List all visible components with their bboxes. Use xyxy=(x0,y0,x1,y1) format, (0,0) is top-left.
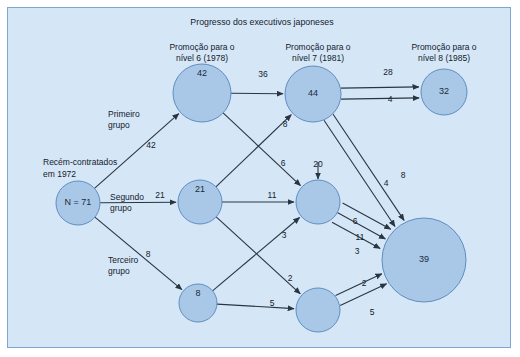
column-header-nivel7-line2: nível 7 (1981) xyxy=(292,53,344,63)
edge-n20-to-n39 xyxy=(343,203,391,229)
column-header-nivel8-line2: nível 8 (1985) xyxy=(418,53,470,63)
edge-n8-to-n20 xyxy=(213,218,300,291)
node-n42: 42 xyxy=(173,64,231,122)
edge-label-n20-n39-15: 11 xyxy=(356,232,365,242)
edge-label-n21-n20-6: 11 xyxy=(268,190,277,200)
edge-label-n21-n44-5: 8 xyxy=(283,119,288,129)
node-n32: 32 xyxy=(421,69,467,115)
node-n39: 39 xyxy=(382,218,466,302)
edge-n42-to-n20 xyxy=(223,113,300,186)
group-3-label-line2: grupo xyxy=(108,266,130,276)
node-nbot xyxy=(296,288,340,332)
group-1-label-line1: Primeiro xyxy=(108,109,140,119)
edge-label-n44-n32-11: 4 xyxy=(388,94,393,104)
edge-label-n8-nbot-9: 5 xyxy=(270,298,275,308)
edge-label-n44-n39-13: 8 xyxy=(401,170,406,180)
node-n8: 8 xyxy=(179,284,217,322)
edge-label-n21-nbot-7: 2 xyxy=(288,273,293,283)
node-label-n21: 21 xyxy=(195,184,205,194)
node-label-n42: 42 xyxy=(197,68,207,78)
node-n44: 44 xyxy=(285,66,341,122)
edge-label-n44-n39-12: 4 xyxy=(384,178,389,188)
edge-label-n44-n32-10: 28 xyxy=(383,67,393,77)
edge-n8-to-nbot xyxy=(217,304,294,309)
node-label-n39: 39 xyxy=(419,254,429,264)
figure-stage: Progresso dos executivos japoneses Promo… xyxy=(0,0,520,357)
node-n71: N = 71 xyxy=(56,181,100,225)
edge-label-nbot-n39-17: 2 xyxy=(362,278,367,288)
edge-n21-to-n44 xyxy=(216,115,291,187)
edge-label-nbot-n39-18: 5 xyxy=(370,307,375,317)
node-circle-n20 xyxy=(296,180,340,224)
edge-n44-to-n39 xyxy=(333,114,404,220)
edge-label-n8-n20-8: 3 xyxy=(282,230,287,240)
edge-label-n71-n42-0: 42 xyxy=(146,140,156,150)
node-n21: 21 xyxy=(178,180,222,224)
column-header-nivel6-line2: nível 6 (1978) xyxy=(176,53,228,63)
edge-n71-to-n8 xyxy=(95,217,182,290)
column-header-nivel8-line1: Promoção para o xyxy=(411,42,476,52)
column-header-nivel6-line1: Promoção para o xyxy=(169,42,234,52)
node-circle-nbot xyxy=(296,288,340,332)
source-label-line1: Recém-contratados xyxy=(43,157,117,167)
node-label-n8: 8 xyxy=(195,288,200,298)
edge-label-n20-n20-19: 20 xyxy=(313,159,323,169)
node-label-n32: 32 xyxy=(439,86,449,96)
edge-label-n71-n8-2: 8 xyxy=(146,249,151,259)
edge-label-n71-n21-1: 21 xyxy=(155,190,165,200)
edge-n44-to-n32 xyxy=(341,87,419,88)
group-3-label-line1: Terceiro xyxy=(108,255,139,265)
group-2-label-line1: Segundo xyxy=(110,192,144,202)
group-2-label-line2: grupo xyxy=(110,203,132,213)
edge-n44-to-n32 xyxy=(341,98,419,99)
edge-label-n42-n44-3: 36 xyxy=(258,69,268,79)
node-n20 xyxy=(296,180,340,224)
edge-label-n20-n39-16: 3 xyxy=(355,246,360,256)
edge-label-n42-n20-4: 6 xyxy=(281,158,286,168)
group-1-label-line2: grupo xyxy=(108,120,130,130)
edge-nbot-to-n39 xyxy=(336,274,382,296)
node-label-n71: N = 71 xyxy=(65,197,92,207)
node-label-n44: 44 xyxy=(308,88,318,98)
source-label-line2: em 1972 xyxy=(43,169,76,179)
chart-title: Progresso dos executivos japoneses xyxy=(190,17,334,27)
edge-label-n20-n39-14: 6 xyxy=(353,216,358,226)
column-header-nivel7-line1: Promoção para o xyxy=(285,42,350,52)
flow-diagram: Progresso dos executivos japoneses Promo… xyxy=(0,0,520,357)
edge-n71-to-n21 xyxy=(100,202,176,203)
